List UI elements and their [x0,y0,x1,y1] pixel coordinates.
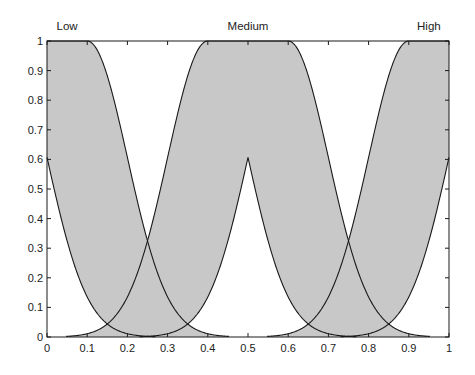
x-tick-label: 0.8 [361,342,376,354]
set-label-low: Low [57,20,79,32]
x-tick-label: 0.5 [240,342,255,354]
membership-function-chart: 00.10.20.30.40.50.60.70.80.91 00.10.20.3… [0,0,475,375]
x-tick-label: 0.2 [120,342,135,354]
y-tick-label: 0.1 [28,301,43,313]
y-tick-label: 0.6 [28,153,43,165]
y-tick-label: 1 [37,35,43,47]
x-tick-label: 0.6 [281,342,296,354]
y-tick-label: 0.9 [28,65,43,77]
y-tick-label: 0.8 [28,94,43,106]
x-tick-label: 0.7 [321,342,336,354]
y-tick-label: 0.2 [28,272,43,284]
y-tick-label: 0.4 [28,213,43,225]
set-label-high: High [417,20,441,32]
x-tick-label: 0.3 [160,342,175,354]
y-tick-label: 0.5 [28,183,43,195]
y-tick-label: 0.3 [28,242,43,254]
x-tick-label: 0.9 [401,342,416,354]
x-tick-label: 0.4 [200,342,215,354]
x-tick-label: 1 [446,342,452,354]
y-tick-label: 0 [37,331,43,343]
set-label-medium: Medium [228,20,269,32]
x-tick-label: 0.1 [80,342,95,354]
x-tick-label: 0 [44,342,50,354]
y-tick-label: 0.7 [28,124,43,136]
